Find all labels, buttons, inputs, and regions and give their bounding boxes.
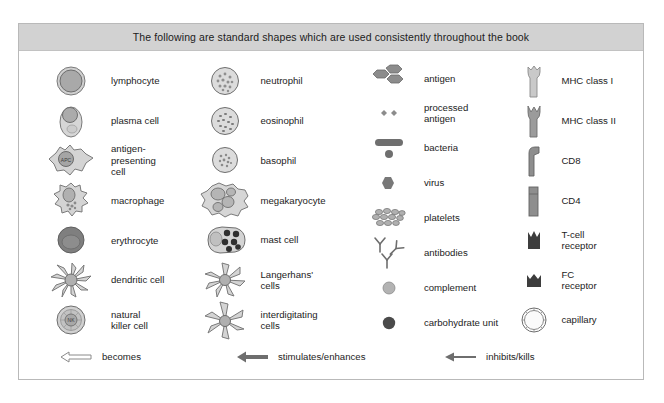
legend-label: inhibits/kills — [477, 351, 535, 362]
legend-item-stimulates: stimulates/enhances — [235, 350, 443, 364]
arrow-legend-row: becomes stimulates/enhances inhibits/kil… — [19, 340, 643, 374]
legend-item-neutrophil: neutrophil — [195, 61, 348, 101]
legend-item-antibodies: antibodies — [362, 235, 507, 270]
legend-item-t-cell-receptor: T-cell receptor — [519, 220, 643, 260]
legend-item-cd8: CD8 — [519, 141, 643, 181]
legend-label: stimulates/enhances — [269, 351, 365, 362]
cd8-icon — [519, 145, 549, 177]
figure-title: The following are standard shapes which … — [133, 31, 529, 43]
legend-label: T-cell receptor — [549, 229, 596, 252]
legend-label: complement — [416, 282, 476, 293]
dendritic-cell-icon — [45, 259, 97, 301]
legend-figure: The following are standard shapes which … — [18, 23, 644, 380]
interdigitating-cells-icon — [195, 299, 255, 341]
legend-label: carbohydrate unit — [416, 317, 498, 328]
inhibits-arrow-icon — [443, 350, 477, 364]
antibodies-icon — [362, 236, 416, 270]
legend-label: lymphocyte — [97, 75, 160, 86]
lymphocyte-icon — [45, 63, 97, 99]
legend-item-carbohydrate-unit: carbohydrate unit — [362, 305, 507, 340]
legend-item-mhc-class-ii: MHC class II — [519, 101, 643, 141]
legend-item-antigen: antigen — [362, 61, 507, 96]
legend-item-megakaryocyte: megakaryocyte — [195, 180, 348, 220]
legend-label: megakaryocyte — [255, 195, 326, 206]
langerhans-cells-icon — [195, 259, 255, 301]
legend-item-becomes: becomes — [59, 350, 235, 364]
legend-label: platelets — [416, 212, 460, 223]
fc-receptor-icon — [519, 270, 549, 290]
legend-label: macrophage — [97, 195, 164, 206]
figure-header-band: The following are standard shapes which … — [19, 24, 643, 51]
legend-label: FC receptor — [549, 269, 596, 292]
legend-item-natural-killer-cell: NK natural killer cell — [45, 300, 189, 340]
legend-label: erythrocyte — [97, 235, 158, 246]
legend-label: plasma cell — [97, 115, 159, 126]
legend-label: CD8 — [549, 155, 580, 166]
carbohydrate-unit-icon — [362, 313, 416, 333]
legend-label: interdigitating cells — [255, 309, 318, 332]
legend-label: antigen- presenting cell — [97, 143, 156, 177]
legend-item-plasma-cell: plasma cell — [45, 101, 189, 141]
legend-label: capillary — [549, 314, 596, 325]
legend-item-dendritic-cell: dendritic cell — [45, 260, 189, 300]
mhc-class-ii-icon — [519, 104, 549, 138]
legend-item-processed-antigen: processed antigen — [362, 96, 507, 131]
virus-icon — [362, 173, 416, 193]
legend-label: virus — [416, 177, 444, 188]
legend-label: antibodies — [416, 247, 468, 258]
antigen-icon — [362, 64, 416, 92]
legend-label: Langerhans' cells — [255, 269, 314, 292]
bacteria-icon — [362, 135, 416, 161]
legend-item-fc-receptor: FC receptor — [519, 260, 643, 300]
cd4-icon — [519, 185, 549, 217]
becomes-arrow-icon — [59, 350, 93, 364]
legend-item-basophil: basophil — [195, 141, 348, 181]
legend-item-mhc-class-i: MHC class I — [519, 61, 643, 101]
legend-label: basophil — [255, 155, 297, 166]
antigen-presenting-cell-icon: APC — [45, 141, 97, 179]
legend-label: CD4 — [549, 195, 580, 206]
legend-item-platelets: platelets — [362, 201, 507, 236]
eosinophil-icon — [195, 104, 255, 138]
legend-item-virus: virus — [362, 166, 507, 201]
macrophage-icon — [45, 180, 97, 220]
legend-label: mast cell — [255, 234, 299, 245]
legend-label: bacteria — [416, 142, 458, 153]
t-cell-receptor-icon — [519, 228, 549, 252]
legend-item-capillary: capillary — [519, 300, 643, 340]
legend-columns: lymphocyte plasma cell AP — [19, 51, 643, 340]
column-particles-3: antigen processed antigen — [348, 61, 507, 340]
legend-item-lymphocyte: lymphocyte — [45, 61, 189, 101]
legend-label: MHC class II — [549, 115, 615, 126]
complement-icon — [362, 278, 416, 298]
legend-label: neutrophil — [255, 75, 303, 86]
legend-item-interdigitating-cells: interdigitating cells — [195, 300, 348, 340]
processed-antigen-icon — [362, 105, 416, 121]
basophil-icon — [195, 144, 255, 176]
legend-label: processed antigen — [416, 102, 468, 125]
legend-label: dendritic cell — [97, 274, 164, 285]
column-cells-2: neutrophil — [189, 61, 348, 340]
legend-item-langerhans-cells: Langerhans' cells — [195, 260, 348, 300]
column-cells-1: lymphocyte plasma cell AP — [19, 61, 189, 340]
legend-item-cd4: CD4 — [519, 181, 643, 221]
legend-item-macrophage: macrophage — [45, 180, 189, 220]
apc-inner-label: APC — [61, 157, 72, 163]
legend-label: antigen — [416, 73, 455, 84]
legend-label: natural killer cell — [97, 309, 148, 332]
legend-item-erythrocyte: erythrocyte — [45, 220, 189, 260]
plasma-cell-icon — [45, 102, 97, 140]
legend-item-eosinophil: eosinophil — [195, 101, 348, 141]
legend-label: eosinophil — [255, 115, 304, 126]
mhc-class-i-icon — [519, 64, 549, 98]
legend-item-complement: complement — [362, 270, 507, 305]
legend-item-antigen-presenting-cell: APC antigen- presenting cell — [45, 141, 189, 181]
erythrocyte-icon — [45, 224, 97, 256]
legend-label: MHC class I — [549, 75, 613, 86]
legend-label: becomes — [93, 351, 141, 362]
legend-item-inhibits: inhibits/kills — [443, 350, 535, 364]
legend-item-mast-cell: mast cell — [195, 220, 348, 260]
platelets-icon — [362, 205, 416, 231]
legend-item-bacteria: bacteria — [362, 131, 507, 166]
stimulates-arrow-icon — [235, 350, 269, 364]
